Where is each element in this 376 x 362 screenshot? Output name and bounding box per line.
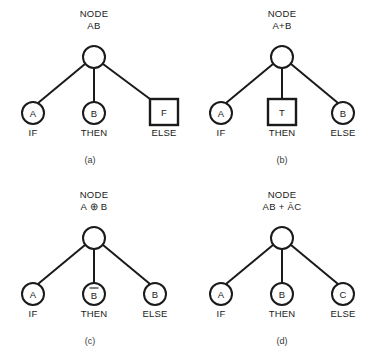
edge-root-to-else: [103, 245, 150, 284]
leaf-then-letter: T: [279, 107, 285, 118]
leaf-then-label: THEN: [81, 127, 108, 138]
panel-caption: (a): [85, 155, 96, 165]
leaf-if-label: IF: [29, 308, 38, 319]
root-title-line1: NODE: [80, 189, 109, 200]
leaf-if-letter: A: [218, 289, 225, 300]
edge-root-to-else: [291, 64, 338, 103]
root-title-line1: NODE: [80, 8, 109, 19]
leaf-then-letter: B: [91, 290, 97, 301]
edge-root-to-else: [103, 64, 150, 99]
root-node-circle[interactable]: [271, 227, 293, 249]
root-node-circle[interactable]: [83, 46, 105, 68]
leaf-then-label: THEN: [269, 308, 296, 319]
leaf-if-label: IF: [217, 127, 226, 138]
edge-root-to-if: [226, 64, 273, 103]
panel-c-tree: NODE A ⊕ B A IF B THEN B ELSE (c): [0, 181, 188, 362]
edge-root-to-else: [291, 245, 338, 284]
root-title-line2: AB: [87, 20, 100, 31]
edge-root-to-if: [38, 64, 85, 103]
leaf-if-label: IF: [29, 127, 38, 138]
leaf-else-letter: C: [340, 289, 347, 300]
panel-b: NODE A+B A IF T THEN B ELSE (b): [188, 0, 376, 181]
root-node-circle[interactable]: [271, 46, 293, 68]
leaf-then-letter: B: [279, 289, 285, 300]
panel-a: NODE AB A IF B THEN F ELSE (a): [0, 0, 188, 181]
leaf-if-letter: A: [30, 289, 37, 300]
panel-b-tree: NODE A+B A IF T THEN B ELSE (b): [188, 0, 376, 181]
edge-root-to-if: [38, 245, 85, 284]
leaf-then-letter: B: [91, 108, 97, 119]
leaf-if-letter: A: [30, 108, 37, 119]
leaf-else-letter: F: [161, 107, 167, 118]
root-title-line2: A ⊕ B: [81, 201, 108, 212]
edge-root-to-if: [226, 245, 273, 284]
leaf-else-letter: B: [152, 289, 158, 300]
root-node-circle[interactable]: [83, 227, 105, 249]
leaf-then-label: THEN: [269, 127, 296, 138]
leaf-if-label: IF: [217, 308, 226, 319]
leaf-then-label: THEN: [81, 308, 108, 319]
root-title-line2: AB + ĀC: [263, 201, 302, 212]
leaf-else-label: ELSE: [330, 308, 355, 319]
leaf-else-label: ELSE: [142, 308, 167, 319]
panel-d: NODE AB + ĀC A IF B THEN C ELSE (d): [188, 181, 376, 362]
root-title-line1: NODE: [268, 8, 297, 19]
leaf-else-label: ELSE: [151, 127, 176, 138]
leaf-if-letter: A: [218, 108, 225, 119]
leaf-else-letter: B: [340, 108, 346, 119]
leaf-else-label: ELSE: [330, 127, 355, 138]
panel-c: NODE A ⊕ B A IF B THEN B ELSE (c): [0, 181, 188, 362]
root-title-line2: A+B: [272, 20, 291, 31]
panel-d-tree: NODE AB + ĀC A IF B THEN C ELSE (d): [188, 181, 376, 362]
root-title-line1: NODE: [268, 189, 297, 200]
panel-caption: (b): [277, 155, 288, 165]
decision-tree-figure: NODE AB A IF B THEN F ELSE (a) NODE A+B: [0, 0, 376, 362]
panel-a-tree: NODE AB A IF B THEN F ELSE (a): [0, 0, 188, 181]
panel-caption: (c): [85, 336, 96, 346]
panel-caption: (d): [277, 336, 288, 346]
